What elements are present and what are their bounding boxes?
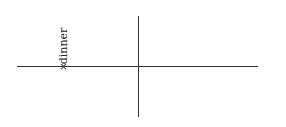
vertical-axis xyxy=(138,16,139,117)
point-label: dinner xyxy=(58,28,69,65)
